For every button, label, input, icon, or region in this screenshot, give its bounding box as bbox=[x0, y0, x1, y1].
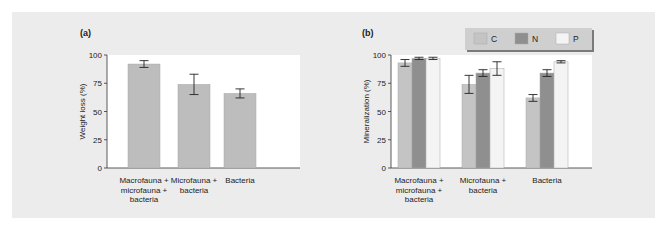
x-tick-label: Microfauna + bbox=[171, 176, 218, 185]
legend-swatch-p bbox=[556, 33, 569, 44]
x-tick-label: Bacteria bbox=[225, 176, 255, 185]
y-tick-label: 0 bbox=[382, 164, 387, 173]
y-tick-label: 100 bbox=[89, 51, 103, 60]
x-tick-label: Microfauna + bbox=[460, 176, 507, 185]
y-tick-label: 50 bbox=[93, 108, 102, 117]
y-axis-label: Mineralization (%) bbox=[362, 79, 371, 143]
y-tick-label: 50 bbox=[377, 108, 386, 117]
legend-label-p: P bbox=[573, 34, 579, 44]
legend-label-n: N bbox=[532, 34, 538, 44]
y-tick-label: 75 bbox=[377, 79, 386, 88]
bar-c bbox=[462, 84, 476, 168]
y-tick-label: 25 bbox=[377, 136, 386, 145]
bar-p bbox=[490, 69, 504, 168]
bar-p bbox=[554, 62, 568, 168]
bar bbox=[178, 84, 210, 168]
x-tick-label: bacteria bbox=[130, 195, 159, 204]
x-tick-label: microfauna + bbox=[396, 186, 443, 195]
x-tick-label: Bacteria bbox=[532, 176, 562, 185]
y-tick-label: 0 bbox=[98, 164, 103, 173]
y-tick-label: 100 bbox=[373, 51, 387, 60]
panel-a-label: (a) bbox=[80, 28, 91, 38]
bar-c bbox=[526, 98, 540, 168]
bar-n bbox=[540, 73, 554, 168]
y-tick-label: 25 bbox=[93, 136, 102, 145]
chart-a: 0255075100Weight loss (%)Macrofauna +mic… bbox=[78, 51, 300, 204]
bar bbox=[128, 64, 160, 168]
legend-swatch-c bbox=[474, 33, 487, 44]
x-tick-label: bacteria bbox=[180, 186, 209, 195]
bar-p bbox=[426, 58, 440, 168]
bar-n bbox=[476, 73, 490, 168]
x-tick-label: Macrofauna + bbox=[119, 176, 168, 185]
x-tick-label: microfauna + bbox=[121, 186, 168, 195]
y-tick-label: 75 bbox=[93, 79, 102, 88]
bar bbox=[224, 93, 256, 168]
x-tick-label: bacteria bbox=[469, 186, 498, 195]
legend-label-c: C bbox=[491, 34, 497, 44]
x-tick-label: bacteria bbox=[405, 195, 434, 204]
y-axis-label: Weight loss (%) bbox=[78, 83, 87, 139]
bar-n bbox=[412, 58, 426, 168]
bar-c bbox=[398, 63, 412, 168]
legend: CNP bbox=[465, 28, 594, 52]
x-tick-label: Macrofauna + bbox=[394, 176, 443, 185]
figure: 0255075100Weight loss (%)Macrofauna +mic… bbox=[0, 0, 665, 229]
panel-b-label: (b) bbox=[362, 28, 374, 38]
chart-b: 0255075100Mineralization (%)Macrofauna +… bbox=[362, 51, 592, 204]
legend-swatch-n bbox=[515, 33, 528, 44]
